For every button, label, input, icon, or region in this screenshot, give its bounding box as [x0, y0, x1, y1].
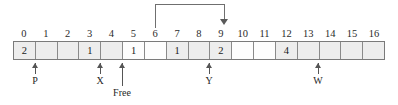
index-label-2: 2 [57, 27, 79, 40]
index-label-3: 3 [79, 27, 101, 40]
pointer-p: P [18, 63, 52, 87]
index-label-14: 14 [319, 27, 341, 40]
array-cell-15 [341, 42, 363, 59]
index-label-13: 13 [297, 27, 319, 40]
array-cell-11 [254, 42, 276, 59]
pointer-y-arrow-icon [209, 63, 210, 74]
array-cell-4 [101, 42, 123, 59]
pointer-y: Y [192, 63, 226, 87]
array-cell-2 [58, 42, 80, 59]
index-label-16: 16 [363, 27, 385, 40]
array-cell-8 [189, 42, 211, 59]
memory-array-diagram: 0 1 2 3 4 5 6 7 8 9 10 11 12 13 14 15 16… [0, 0, 398, 105]
array-cell-1 [36, 42, 58, 59]
pointer-y-label: Y [192, 75, 226, 87]
index-label-row: 0 1 2 3 4 5 6 7 8 9 10 11 12 13 14 15 16 [13, 27, 385, 40]
index-label-7: 7 [166, 27, 188, 40]
array-cell-3: 1 [79, 42, 101, 59]
pointer-free: Free [105, 63, 139, 99]
pointer-y-arrowhead-icon [206, 63, 212, 68]
pointer-p-arrowhead-icon [32, 63, 38, 68]
array-cell-14 [320, 42, 342, 59]
index-label-5: 5 [122, 27, 144, 40]
pointer-p-arrow-icon [35, 63, 36, 74]
link-arrow-bracket [0, 0, 398, 28]
index-label-6: 6 [144, 27, 166, 40]
array-cell-13 [298, 42, 320, 59]
index-label-4: 4 [101, 27, 123, 40]
index-label-1: 1 [35, 27, 57, 40]
index-label-9: 9 [210, 27, 232, 40]
link-arrow-right-stem [224, 4, 225, 20]
pointer-x-arrowhead-icon [97, 63, 103, 68]
index-label-0: 0 [13, 27, 35, 40]
pointer-w-arrow-icon [318, 63, 319, 74]
index-label-11: 11 [254, 27, 276, 40]
index-label-10: 10 [232, 27, 254, 40]
pointer-w: W [301, 63, 335, 87]
pointer-p-label: P [18, 75, 52, 87]
array-cell-12: 4 [276, 42, 298, 59]
array-cell-10 [232, 42, 254, 59]
array-cell-0: 2 [14, 42, 36, 59]
pointer-x-arrow-icon [100, 63, 101, 74]
index-label-15: 15 [341, 27, 363, 40]
array-cell-16 [363, 42, 384, 59]
pointer-w-label: W [301, 75, 335, 87]
array-cell-row: 2 1 1 1 2 4 [13, 41, 385, 60]
pointer-free-arrowhead-icon [119, 63, 125, 68]
index-label-12: 12 [276, 27, 298, 40]
index-label-8: 8 [188, 27, 210, 40]
array-cell-7: 1 [167, 42, 189, 59]
pointer-free-label: Free [105, 87, 139, 99]
link-arrow-left-stem [155, 4, 156, 28]
pointer-w-arrowhead-icon [315, 63, 321, 68]
link-arrow-top-bar [155, 4, 225, 5]
array-cell-5: 1 [123, 42, 145, 59]
array-cell-9: 2 [210, 42, 232, 59]
pointer-free-arrow-icon [122, 63, 123, 86]
link-arrow-head-icon [220, 19, 228, 25]
array-cell-6 [145, 42, 167, 59]
